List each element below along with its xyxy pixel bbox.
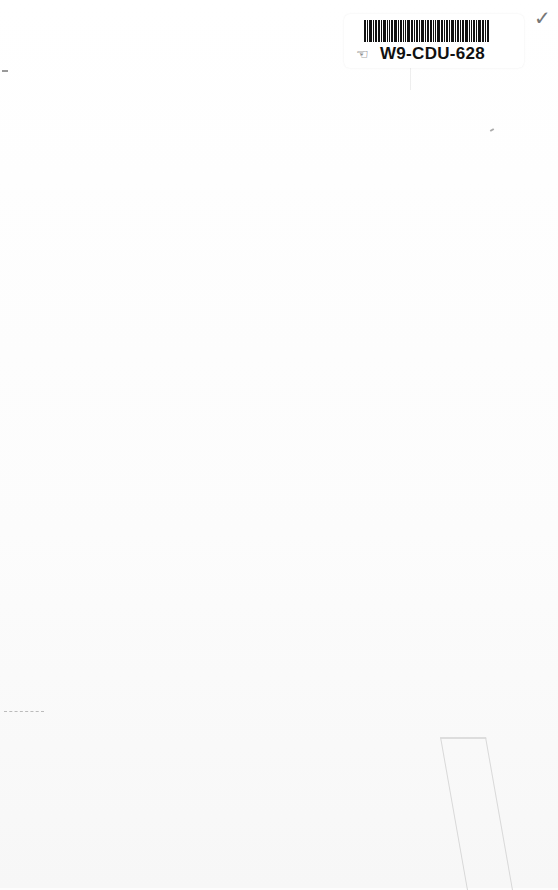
barcode-bar: [476, 20, 477, 42]
barcode-bar: [433, 20, 434, 42]
barcode-bar: [449, 20, 450, 42]
barcode-bar: [482, 20, 484, 42]
edge-dash: [4, 711, 44, 713]
barcode-bar: [411, 20, 413, 42]
pencil-mark: [490, 128, 494, 132]
barcode-bar: [387, 20, 388, 42]
barcode-bar: [473, 20, 475, 42]
barcode-bar: [471, 20, 472, 42]
barcode-bar: [444, 20, 445, 42]
barcode-bar: [469, 20, 470, 42]
barcode-bar: [414, 20, 415, 42]
barcode-bar: [446, 20, 448, 42]
barcode-bar: [435, 20, 436, 42]
barcode-bar: [373, 20, 374, 42]
barcode-bar: [419, 20, 420, 42]
barcode-bar: [465, 20, 468, 42]
barcode-bar: [478, 20, 481, 42]
paper-crease-mark: [440, 737, 513, 890]
edge-mark: [2, 70, 8, 72]
barcode-bar: [391, 20, 393, 42]
barcode-bar: [389, 20, 390, 42]
barcode-bar: [437, 20, 440, 42]
barcode-label-row: ☜ W9-CDU-628: [356, 44, 485, 64]
barcode-bar: [375, 20, 377, 42]
barcode-bar: [383, 20, 386, 42]
barcode-bar: [367, 20, 368, 42]
barcode-bar: [416, 20, 418, 42]
barcode-bar: [398, 20, 399, 42]
barcode-bar: [462, 20, 464, 42]
barcode-bar: [403, 20, 404, 42]
barcode-bar: [400, 20, 402, 42]
barcode-id: W9-CDU-628: [380, 44, 485, 64]
barcode-bar: [487, 20, 489, 42]
hand-pointer-icon: ☜: [356, 47, 370, 61]
barcode-bar: [455, 20, 456, 42]
library-barcode-sticker: ☜ W9-CDU-628: [344, 14, 524, 68]
barcode-bar: [405, 20, 406, 42]
barcode-graphic: [364, 20, 520, 42]
barcode-bar: [457, 20, 459, 42]
barcode-bar: [460, 20, 461, 42]
barcode-bar: [451, 20, 454, 42]
barcode-bar: [425, 20, 426, 42]
barcode-bar: [369, 20, 372, 42]
barcode-bar: [421, 20, 424, 42]
barcode-bar: [394, 20, 397, 42]
barcode-bar: [364, 20, 366, 42]
barcode-bar: [441, 20, 443, 42]
checkmark-annotation: ✓: [534, 6, 551, 30]
barcode-bar: [430, 20, 432, 42]
barcode-bar: [378, 20, 380, 42]
barcode-bar: [485, 20, 486, 42]
barcode-bar: [407, 20, 410, 42]
barcode-bar: [427, 20, 429, 42]
barcode-bar: [381, 20, 382, 42]
